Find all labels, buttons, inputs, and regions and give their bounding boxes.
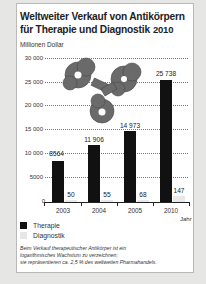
value-label-diagnostik-2003: 50 [56,191,86,198]
value-label-therapie-2003: 8564 [38,150,64,157]
chart-title: Weltweiter Verkauf von Antikörpern für T… [20,10,185,36]
title-line-2: für Therapie und Diagnostik2010 [20,23,185,36]
value-label-therapie-2004: 11 906 [79,136,109,143]
y-tick-20000: 20 000 [17,102,43,109]
x-axis-tick [153,202,154,206]
y-tick-15000: 15 000 [17,126,43,133]
footnote-line-1: Beim Verkauf therapeutischer Antikörper … [20,245,157,252]
antibody-molecule-icon [62,57,150,125]
x-axis-tick [44,202,45,206]
legend-swatch-therapie [20,222,27,229]
y-tick-30000: 30 000 [17,55,43,62]
x-axis-tick [81,202,82,206]
legend-item-diagnostik: Diagnostik [20,232,65,239]
x-label-2005: 2005 [117,207,153,214]
value-label-diagnostik-2004: 55 [92,191,122,198]
x-label-2003: 2003 [45,207,81,214]
value-label-therapie-2005: 14 973 [115,122,145,129]
y-tick-25000: 25 000 [17,79,43,86]
bar-therapie-2010 [160,80,172,202]
x-axis-tick [117,202,118,206]
x-axis-title: Jahr [180,216,192,222]
chart-footnote: Beim Verkauf therapeutischer Antikörper … [20,245,157,267]
x-axis-tick [189,202,190,206]
legend-label-diagnostik: Diagnostik [33,232,65,239]
legend-swatch-diagnostik [20,232,27,239]
value-label-diagnostik-2005: 68 [128,191,158,198]
value-label-diagnostik-2010: 147 [164,187,194,194]
y-tick-0: 0 [17,198,45,205]
title-year: 2010 [153,24,173,35]
y-axis-unit-label: Millionen Dollar [20,41,64,48]
title-line-1: Weltweiter Verkauf von Antikörpern [20,10,185,23]
x-label-2010: 2010 [153,207,189,214]
footnote-line-3: sie repräsentieren ca. 2,5 % des weltwei… [20,259,157,266]
x-label-2004: 2004 [81,207,117,214]
legend-item-therapie: Therapie [20,222,60,229]
y-tick-5000: 5000 [17,174,43,181]
value-label-therapie-2010: 25 738 [151,70,181,77]
footnote-line-2: logarithmisches Wachstum zu verzeichnen; [20,252,157,259]
legend-label-therapie: Therapie [33,222,60,229]
